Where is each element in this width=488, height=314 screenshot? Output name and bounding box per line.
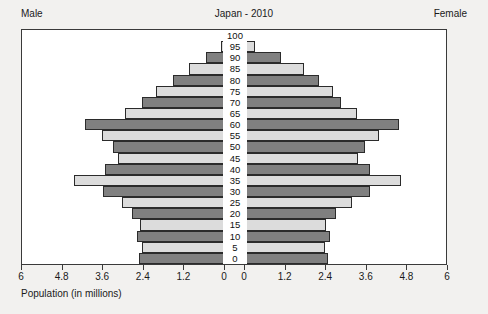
bar-male-age-80[interactable] (173, 75, 225, 86)
female-bar-row (245, 186, 448, 197)
male-bar-row (22, 119, 225, 130)
bar-female-age-75[interactable] (245, 86, 333, 97)
female-bar-row (245, 30, 448, 41)
bar-female-age-10[interactable] (245, 231, 330, 242)
plot-area: 1009590858075706560555045403530252015105… (21, 29, 447, 265)
x-tick-label-left-6: 6 (18, 271, 24, 282)
bar-male-age-40[interactable] (105, 164, 225, 175)
bar-female-age-0[interactable] (245, 253, 328, 264)
male-bar-row (22, 75, 225, 86)
bar-male-age-95[interactable] (221, 41, 225, 52)
male-bar-row (22, 208, 225, 219)
bar-male-age-70[interactable] (142, 97, 225, 108)
female-bar-row (245, 119, 448, 130)
bar-female-age-65[interactable] (245, 108, 357, 119)
bar-female-age-95[interactable] (245, 41, 255, 52)
x-tick-label-right-6: 6 (444, 271, 450, 282)
bar-female-age-50[interactable] (245, 141, 365, 152)
female-bar-row (245, 52, 448, 63)
x-tick-label-right-2.4: 2.4 (318, 271, 332, 282)
bar-male-age-20[interactable] (132, 208, 225, 219)
bar-female-age-80[interactable] (245, 75, 319, 86)
female-bar-row (245, 108, 448, 119)
male-bars-group (22, 30, 235, 264)
x-tick-label-right-3.6: 3.6 (359, 271, 373, 282)
female-bar-row (245, 175, 448, 186)
bar-female-age-85[interactable] (245, 63, 304, 74)
bar-female-age-45[interactable] (245, 153, 358, 164)
x-tick-right-6 (447, 265, 448, 270)
page-title: Japan - 2010 (0, 8, 488, 19)
bar-female-age-15[interactable] (245, 219, 326, 230)
male-bar-row (22, 141, 225, 152)
bar-female-age-100[interactable] (245, 30, 247, 41)
bar-female-age-30[interactable] (245, 186, 370, 197)
male-bar-row (22, 52, 225, 63)
male-bar-row (22, 253, 225, 264)
female-axis-label: Female (434, 8, 467, 19)
x-tick-right-3.6 (366, 265, 367, 270)
male-bar-row (22, 242, 225, 253)
male-bar-row (22, 108, 225, 119)
x-tick-right-4.8 (406, 265, 407, 270)
female-bar-row (245, 153, 448, 164)
x-tick-label-left-1.2: 1.2 (176, 271, 190, 282)
bar-female-age-70[interactable] (245, 97, 341, 108)
bar-female-age-35[interactable] (245, 175, 401, 186)
bar-male-age-60[interactable] (85, 119, 225, 130)
x-tick-label-left-4.8: 4.8 (55, 271, 69, 282)
female-bar-row (245, 208, 448, 219)
bar-male-age-15[interactable] (140, 219, 225, 230)
x-tick-label-left-2.4: 2.4 (136, 271, 150, 282)
x-tick-label-left-0: 0 (221, 271, 227, 282)
male-bar-row (22, 41, 225, 52)
x-tick-left-2.4 (143, 265, 144, 270)
bar-male-age-90[interactable] (206, 52, 225, 63)
bar-male-age-35[interactable] (74, 175, 225, 186)
x-tick-label-right-4.8: 4.8 (399, 271, 413, 282)
bar-female-age-60[interactable] (245, 119, 399, 130)
bar-male-age-50[interactable] (113, 141, 225, 152)
bar-male-age-45[interactable] (118, 153, 225, 164)
male-bar-row (22, 153, 225, 164)
female-bar-row (245, 231, 448, 242)
bar-male-age-100[interactable] (223, 30, 225, 41)
bar-female-age-55[interactable] (245, 130, 379, 141)
male-bar-row (22, 30, 225, 41)
x-axis-title: Population (in millions) (21, 288, 122, 299)
x-tick-left-6 (21, 265, 22, 270)
male-bar-row (22, 175, 225, 186)
bar-female-age-40[interactable] (245, 164, 370, 175)
bar-male-age-55[interactable] (102, 130, 225, 141)
male-bar-row (22, 186, 225, 197)
bar-male-age-65[interactable] (125, 108, 225, 119)
bar-male-age-25[interactable] (122, 197, 225, 208)
male-bar-row (22, 63, 225, 74)
x-tick-left-3.6 (102, 265, 103, 270)
bar-female-age-25[interactable] (245, 197, 352, 208)
bar-male-age-10[interactable] (137, 231, 225, 242)
x-tick-label-right-1.2: 1.2 (278, 271, 292, 282)
x-tick-right-1.2 (285, 265, 286, 270)
female-bar-row (245, 141, 448, 152)
x-tick-right-2.4 (325, 265, 326, 270)
x-tick-left-0 (224, 265, 225, 270)
female-bar-row (245, 97, 448, 108)
population-pyramid-chart: Male Japan - 2010 Female 100959085807570… (0, 0, 488, 314)
bar-female-age-20[interactable] (245, 208, 336, 219)
male-bar-row (22, 197, 225, 208)
female-bar-row (245, 253, 448, 264)
bar-male-age-85[interactable] (189, 63, 225, 74)
female-bar-row (245, 242, 448, 253)
male-bar-row (22, 97, 225, 108)
male-bar-row (22, 86, 225, 97)
male-bar-row (22, 164, 225, 175)
male-bar-row (22, 130, 225, 141)
bar-male-age-5[interactable] (142, 242, 225, 253)
bar-female-age-5[interactable] (245, 242, 325, 253)
bar-male-age-30[interactable] (103, 186, 225, 197)
male-bar-row (22, 219, 225, 230)
bar-female-age-90[interactable] (245, 52, 281, 63)
bar-male-age-0[interactable] (139, 253, 225, 264)
bar-male-age-75[interactable] (156, 86, 225, 97)
